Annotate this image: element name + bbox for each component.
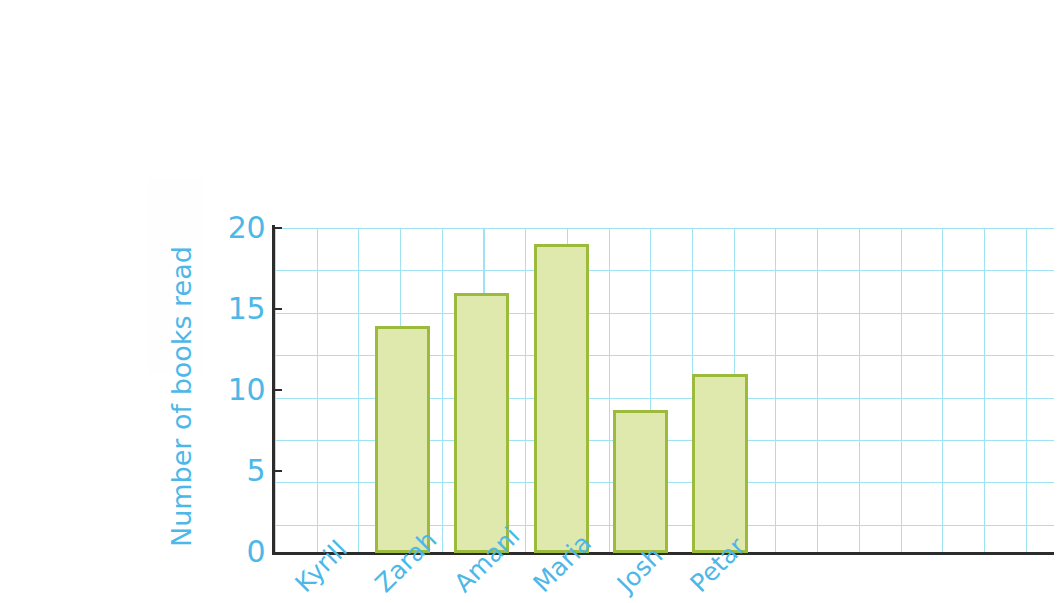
bar-chart: 20 15 10 5 0 Number of books read Kyrill… bbox=[148, 179, 203, 374]
x-label-josh: Josh bbox=[613, 543, 667, 597]
x-label-maria: Maria bbox=[529, 530, 596, 597]
x-label-kyrill: Kyrill bbox=[291, 536, 351, 596]
x-axis-labels: Kyrill Zarah Amani Maria Josh Petar bbox=[148, 179, 1058, 603]
x-label-amani: Amani bbox=[450, 523, 524, 597]
x-label-petar: Petar bbox=[686, 533, 750, 597]
x-label-zarah: Zarah bbox=[371, 527, 441, 597]
